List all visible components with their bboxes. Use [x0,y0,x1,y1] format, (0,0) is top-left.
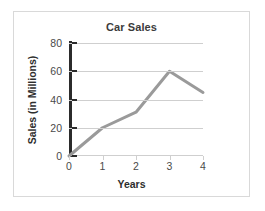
x-tick-label-0: 0 [59,160,79,172]
chart-card: Car Sales Sales (in Millions) 020406080 … [13,11,250,197]
y-tick-mark-40 [72,99,77,101]
x-tick-label-1: 1 [93,160,113,172]
y-tick-mark-80 [72,42,77,44]
y-tick-label-60: 60 [40,66,62,77]
gridline-y-20 [69,128,203,129]
x-tick-label-4: 4 [193,160,213,172]
y-tick-mark-20 [72,127,77,129]
plot-inner [69,43,203,156]
y-tick-mark-0 [72,155,77,157]
x-tick-label-3: 3 [160,160,180,172]
x-axis-title: Years [14,178,249,190]
y-tick-label-80: 80 [40,38,62,49]
plot-area [69,43,203,156]
y-tick-label-20: 20 [40,123,62,134]
y-axis-title: Sales (in Millions) [26,56,38,145]
x-tick-label-2: 2 [126,160,146,172]
gridline-y-40 [69,100,203,101]
x-axis-tick-labels: 01234 [69,160,203,174]
y-tick-label-40: 40 [40,94,62,105]
gridline-y-60 [69,71,203,72]
y-tick-mark-60 [72,70,77,72]
gridline-y-80 [69,43,203,44]
